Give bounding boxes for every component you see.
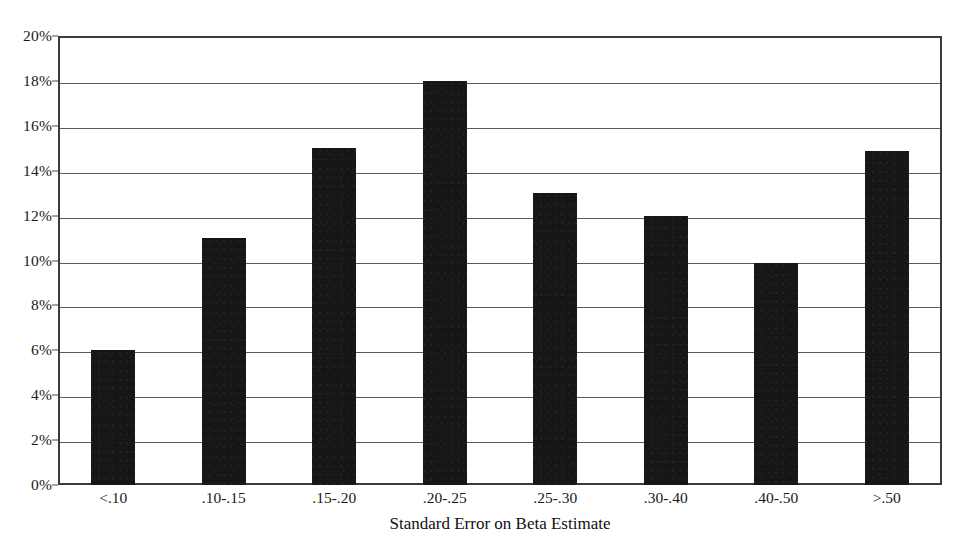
y-axis: 0%2%4%6%8%10%12%14%16%18%20% (0, 36, 52, 485)
bar-slot (390, 36, 501, 485)
y-axis-tick-mark (52, 215, 58, 216)
y-axis-tick-label: 18% (6, 73, 52, 89)
bar[interactable] (312, 148, 356, 485)
y-axis-tick-label: 4% (6, 387, 52, 403)
y-axis-tick-label: 0% (6, 477, 52, 493)
y-axis-tick-mark (52, 440, 58, 441)
y-axis-tick-mark (52, 305, 58, 306)
x-axis-tick-label: .15-.20 (279, 490, 390, 506)
y-axis-tick-label: 12% (6, 208, 52, 224)
y-axis-tick-label: 8% (6, 298, 52, 314)
y-axis-tick-mark (52, 125, 58, 126)
x-axis-tick-label: >.50 (832, 490, 943, 506)
y-axis-tick-mark (52, 170, 58, 171)
y-axis-tick-label: 10% (6, 253, 52, 269)
x-axis-tick-label: .40-.50 (721, 490, 832, 506)
y-axis-tick-label: 14% (6, 163, 52, 179)
bar-slot (58, 36, 169, 485)
bar-slot (500, 36, 611, 485)
bar[interactable] (865, 151, 909, 486)
x-axis-tick-label: .20-.25 (390, 490, 501, 506)
bar-slot (169, 36, 280, 485)
bar[interactable] (91, 350, 135, 485)
y-axis-tick-label: 20% (6, 28, 52, 44)
bar[interactable] (533, 193, 577, 485)
x-axis-title: Standard Error on Beta Estimate (58, 515, 942, 532)
bar[interactable] (202, 238, 246, 485)
bar-slot (611, 36, 722, 485)
bar-slot (279, 36, 390, 485)
x-axis-tick-label: .25-.30 (500, 490, 611, 506)
y-axis-tick-mark (52, 260, 58, 261)
bar-series (58, 36, 942, 485)
bar[interactable] (754, 263, 798, 485)
y-axis-tick-mark (52, 485, 58, 486)
y-axis-tick-mark (52, 36, 58, 37)
y-axis-tick-label: 6% (6, 343, 52, 359)
bar-slot (721, 36, 832, 485)
bar[interactable] (423, 81, 467, 485)
y-axis-tick-mark (52, 80, 58, 81)
bar-slot (832, 36, 943, 485)
bar-chart-figure: 0%2%4%6%8%10%12%14%16%18%20% <.10.10-.15… (0, 0, 973, 551)
y-axis-tick-mark (52, 395, 58, 396)
y-axis-tick-label: 2% (6, 432, 52, 448)
x-axis-tick-label: .30-.40 (611, 490, 722, 506)
x-axis-tick-label: <.10 (58, 490, 169, 506)
x-axis-tick-label: .10-.15 (169, 490, 280, 506)
bar[interactable] (644, 216, 688, 485)
y-axis-tick-mark (52, 350, 58, 351)
x-axis: <.10.10-.15.15-.20.20-.25.25-.30.30-.40.… (58, 490, 942, 514)
y-axis-tick-label: 16% (6, 118, 52, 134)
